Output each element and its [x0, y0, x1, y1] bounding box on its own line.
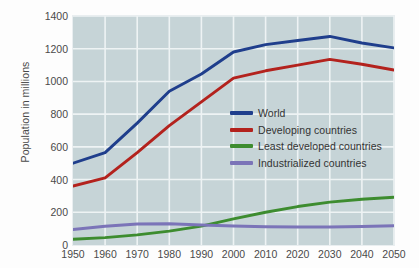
x-axis-tick-label: 2050: [374, 248, 414, 260]
legend-color-swatch: [230, 128, 253, 132]
y-axis-tick-label: 1200: [24, 44, 68, 54]
legend-item[interactable]: Developing countries: [230, 122, 395, 139]
legend-item[interactable]: World: [230, 105, 395, 122]
y-axis-tick-labels: 1400120010008006004002000: [22, 0, 68, 268]
legend-item[interactable]: Industrialized countries: [230, 155, 395, 172]
y-axis-tick-label: 800: [24, 109, 68, 119]
legend-label: Developing countries: [258, 124, 357, 136]
y-axis-tick-label: 600: [24, 142, 68, 152]
y-axis-tick-label: 1000: [24, 76, 68, 86]
y-axis-tick-label: 1400: [24, 11, 68, 21]
legend-label: Least developed countries: [258, 140, 382, 152]
y-axis-tick-label: 400: [24, 175, 68, 185]
legend-color-swatch: [230, 161, 253, 165]
legend-color-swatch: [230, 111, 253, 115]
chart-figure: Population in millions 14001200100080060…: [0, 0, 419, 268]
legend-label: World: [258, 107, 285, 119]
y-axis-tick-label: 200: [24, 207, 68, 217]
chart-legend: WorldDeveloping countriesLeast developed…: [230, 105, 395, 171]
legend-color-swatch: [230, 144, 253, 148]
x-axis-tick-labels: 1950196019701980199020002010202020302040…: [0, 248, 419, 266]
legend-label: Industrialized countries: [258, 157, 367, 169]
legend-item[interactable]: Least developed countries: [230, 138, 395, 155]
